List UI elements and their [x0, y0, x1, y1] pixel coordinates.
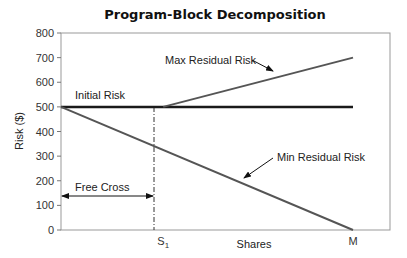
series-lines — [61, 58, 353, 230]
x-tick-label: M — [348, 235, 357, 247]
series-min-residual-risk — [61, 107, 353, 230]
y-tick-label: 200 — [36, 175, 54, 187]
y-tick-label: 300 — [36, 150, 54, 162]
y-tick-label: 100 — [36, 199, 54, 211]
y-axis-label: Risk ($) — [13, 112, 25, 150]
arrow-min-residual — [244, 158, 273, 178]
y-tick-label: 800 — [36, 27, 54, 39]
y-tick-label: 600 — [36, 76, 54, 88]
annotation-free-cross: Free Cross — [75, 181, 130, 193]
annotation-min-residual-risk: Min Residual Risk — [277, 151, 366, 163]
y-axis: 0100200300400500600700800 — [36, 27, 61, 236]
y-tick-label: 0 — [48, 224, 54, 236]
chart-figure: Program-Block Decomposition 010020030040… — [0, 0, 407, 258]
chart-title: Program-Block Decomposition — [104, 7, 326, 22]
y-tick-label: 700 — [36, 52, 54, 64]
annotation-initial-risk: Initial Risk — [75, 89, 126, 101]
y-tick-label: 500 — [36, 101, 54, 113]
y-tick-label: 400 — [36, 126, 54, 138]
x-axis-label: Shares — [237, 238, 272, 250]
annotation-max-residual-risk: Max Residual Risk — [165, 54, 257, 66]
x-tick-label: S1 — [157, 235, 169, 250]
